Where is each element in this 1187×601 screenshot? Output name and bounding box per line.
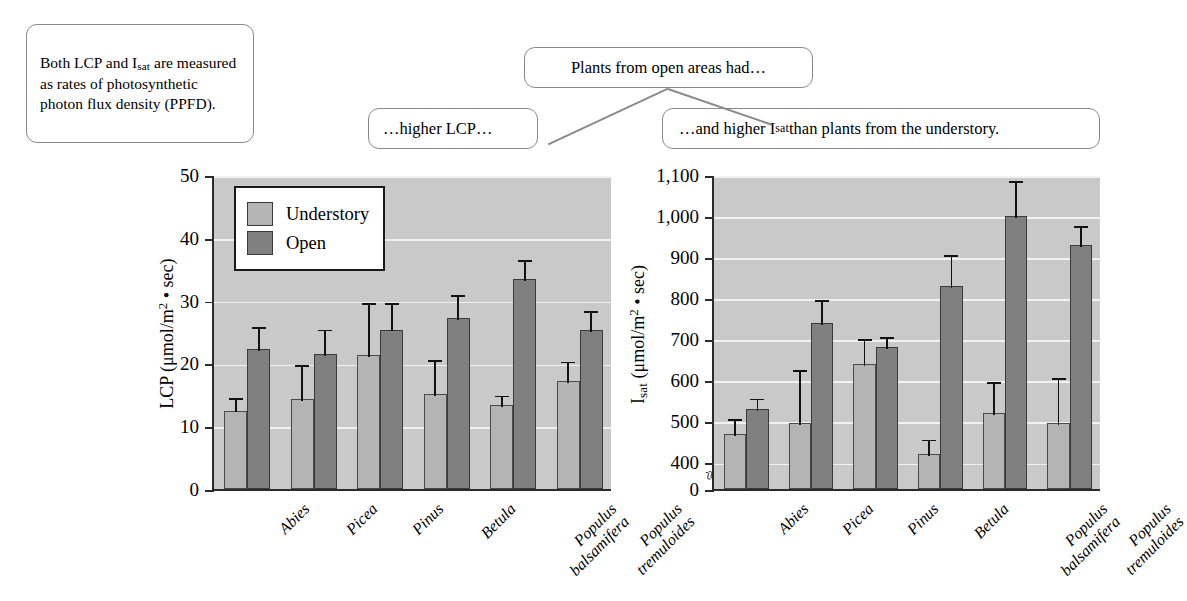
- gridline: [714, 464, 1100, 466]
- y-axis-tick-label: 20: [169, 353, 199, 375]
- callout-higher-isat-subscript: sat: [775, 121, 789, 136]
- error-bar-cap: [793, 370, 807, 372]
- x-axis-label-2: Pinus: [904, 500, 942, 538]
- error-bar-stem: [757, 399, 759, 411]
- error-bar-cap: [295, 365, 309, 367]
- legend-label-understory: Understory: [286, 204, 369, 225]
- callout-open-areas: Plants from open areas had…: [524, 47, 813, 88]
- error-bar-cap: [1052, 378, 1066, 380]
- gridline: [214, 176, 611, 178]
- legend-label-open: Open: [286, 233, 326, 254]
- y-axis-tick: [705, 381, 714, 383]
- y-axis-tick-label: 1,000: [645, 206, 699, 228]
- error-bar-stem: [864, 339, 866, 366]
- chart-lcp-y-axis-title: LCP (μmol/m2 • sec): [155, 258, 178, 408]
- y-axis-tick: [705, 299, 714, 301]
- y-axis-tick: [705, 490, 714, 492]
- bar-isat-understory-2: [853, 364, 875, 489]
- bar-isat-understory-5: [1047, 423, 1069, 489]
- error-bar-stem: [1058, 378, 1060, 425]
- gridline: [214, 302, 611, 304]
- error-bar-stem: [1080, 226, 1082, 247]
- error-bar-cap: [922, 440, 936, 442]
- y-axis-tick-label: 0: [645, 479, 699, 501]
- x-axis-label-3: Betula: [477, 500, 519, 542]
- bar-lcp-open-3: [447, 318, 470, 489]
- y-axis-tick: [705, 217, 714, 219]
- gridline: [214, 365, 611, 367]
- error-bar-cap: [252, 327, 266, 329]
- callout-ppfd-definition: Both LCP and Isat are measured as rates …: [26, 24, 254, 143]
- bar-lcp-understory-4: [490, 405, 513, 489]
- y-axis-tick: [705, 340, 714, 342]
- y-axis-tick-label: 30: [169, 291, 199, 313]
- legend-swatch-open-icon: [247, 231, 273, 255]
- error-bar-cap: [428, 360, 442, 362]
- gridline: [714, 217, 1100, 219]
- error-bar-cap: [880, 337, 894, 339]
- y-axis-tick-label: 40: [169, 228, 199, 250]
- bar-isat-open-4: [1005, 216, 1027, 489]
- y-axis-tick: [205, 427, 214, 429]
- legend-item-understory[interactable]: Understory: [247, 202, 369, 226]
- y-axis-tick-label: 900: [645, 247, 699, 269]
- y-axis-tick: [205, 302, 214, 304]
- error-bar-cap: [318, 330, 332, 332]
- x-axis-label-0: Abies: [276, 500, 314, 538]
- error-bar-cap: [728, 419, 742, 421]
- error-bar-cap: [385, 303, 399, 305]
- gridline: [214, 427, 611, 429]
- error-bar-cap: [815, 300, 829, 302]
- callout-higher-isat-text-b: than plants from the understory.: [789, 118, 999, 139]
- x-axis-label-3: Betula: [970, 500, 1012, 542]
- x-axis-label-5: Populustremuloides: [1109, 500, 1187, 578]
- error-bar-stem: [567, 362, 569, 383]
- gridline: [714, 422, 1100, 424]
- callout-open-areas-label: Plants from open areas had…: [571, 57, 766, 78]
- chart-legend: UnderstoryOpen: [234, 186, 385, 271]
- bar-isat-understory-1: [789, 423, 811, 489]
- bar-lcp-open-2: [380, 330, 403, 490]
- bar-isat-open-1: [811, 323, 833, 489]
- bar-isat-open-5: [1070, 245, 1092, 489]
- error-bar-cap: [858, 339, 872, 341]
- error-bar-stem: [235, 398, 237, 412]
- error-bar-stem: [734, 419, 736, 435]
- bar-lcp-open-0: [247, 349, 270, 489]
- error-bar-stem: [368, 303, 370, 356]
- y-axis-tick: [205, 239, 214, 241]
- callout-ppfd-text-a: Both LCP and I: [40, 54, 137, 71]
- bar-isat-open-2: [876, 347, 898, 489]
- bar-lcp-understory-1: [291, 399, 314, 489]
- legend-item-open[interactable]: Open: [247, 231, 369, 255]
- gridline: [714, 381, 1100, 383]
- x-axis-label-2: Pinus: [409, 500, 447, 538]
- error-bar-cap: [362, 303, 376, 305]
- connector-line-left: [548, 88, 668, 145]
- x-axis-label-1: Picea: [342, 500, 380, 538]
- bar-isat-open-3: [940, 286, 962, 489]
- y-axis-tick-label: 1,100: [645, 165, 699, 187]
- error-bar-stem: [928, 440, 930, 456]
- y-axis-tick-label: 400: [645, 452, 699, 474]
- error-bar-stem: [324, 330, 326, 356]
- error-bar-cap: [495, 396, 509, 398]
- error-bar-cap: [987, 382, 1001, 384]
- error-bar-stem: [993, 382, 995, 415]
- bar-lcp-understory-2: [357, 355, 380, 489]
- error-bar-cap: [1009, 181, 1023, 183]
- bar-isat-understory-3: [918, 454, 940, 489]
- error-bar-cap: [229, 398, 243, 400]
- callout-higher-lcp: …higher LCP…: [368, 108, 538, 149]
- bar-isat-open-0: [746, 409, 768, 489]
- gridline: [714, 299, 1100, 301]
- error-bar-stem: [391, 303, 393, 331]
- error-bar-stem: [590, 311, 592, 332]
- callout-higher-lcp-label: …higher LCP…: [383, 118, 493, 139]
- y-axis-tick: [205, 490, 214, 492]
- error-bar-stem: [524, 260, 526, 281]
- y-axis-tick: [705, 258, 714, 260]
- error-bar-stem: [434, 360, 436, 396]
- x-axis-label-4: Populusbalsamifera: [1045, 500, 1124, 579]
- y-axis-tick-label: 0: [169, 479, 199, 501]
